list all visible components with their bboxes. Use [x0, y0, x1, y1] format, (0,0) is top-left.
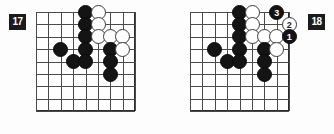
- grid-line-horizontal: [190, 74, 289, 75]
- black-stone[interactable]: [103, 67, 118, 82]
- figure-number-badge-18: 18: [308, 14, 325, 30]
- white-stone[interactable]: [115, 42, 130, 57]
- grid-line-horizontal: [36, 74, 135, 75]
- grid-line-horizontal: [190, 111, 289, 112]
- white-stone[interactable]: [269, 42, 284, 57]
- black-stone[interactable]: [207, 42, 222, 57]
- grid-line-horizontal: [36, 86, 135, 87]
- grid-line-horizontal: [36, 99, 135, 100]
- grid-line-horizontal: [190, 86, 289, 87]
- grid-line-horizontal: [190, 99, 289, 100]
- go-board-18[interactable]: 321: [190, 12, 289, 111]
- move-stone-1[interactable]: 1: [282, 29, 297, 44]
- black-stone[interactable]: [53, 42, 68, 57]
- grid-line-horizontal: [36, 111, 135, 112]
- move-stone-3[interactable]: 3: [269, 5, 284, 20]
- go-board-17[interactable]: [36, 12, 135, 111]
- figure-number-badge-17: 17: [9, 14, 26, 30]
- black-stone[interactable]: [257, 67, 272, 82]
- go-diagram-page: 17 18 321: [0, 0, 334, 134]
- grid-line-vertical: [135, 12, 136, 111]
